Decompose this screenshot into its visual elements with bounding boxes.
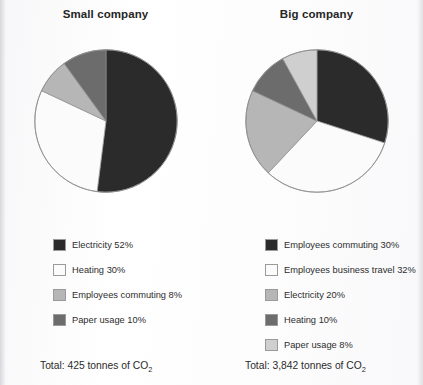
total-text: Total: 425 tonnes of CO — [40, 360, 148, 371]
legend-item-label: Heating 10% — [284, 314, 337, 326]
chart-title-big-company: Big company — [211, 8, 422, 20]
legend-item-label: Employees commuting 8% — [72, 289, 182, 301]
total-subscript: 2 — [362, 365, 366, 374]
pie-svg-small-company — [33, 48, 179, 194]
pie-svg-big-company — [244, 48, 390, 194]
chart-title-small-company: Small company — [0, 8, 211, 20]
legend-swatch — [265, 314, 278, 326]
legend-swatch — [265, 264, 278, 276]
legend-swatch — [265, 239, 278, 251]
legend-item: Employees commuting 8% — [0, 282, 211, 307]
legend-swatch — [265, 289, 278, 301]
legend-item: Employees commuting 30% — [211, 232, 422, 257]
legend-swatch — [53, 239, 66, 251]
legend-item-label: Electricity 52% — [72, 239, 133, 251]
legend-small-company: Electricity 52%Heating 30%Employees comm… — [0, 232, 211, 332]
legend-item-label: Paper usage 10% — [72, 314, 146, 326]
pie-slice — [97, 50, 177, 192]
legend-item: Heating 10% — [211, 307, 422, 332]
total-label-small-company: Total: 425 tonnes of CO2 — [40, 360, 152, 371]
legend-item-label: Electricity 20% — [284, 289, 345, 301]
legend-item: Heating 30% — [0, 257, 211, 282]
legend-item: Employees business travel 32% — [211, 257, 422, 282]
legend-item: Electricity 52% — [0, 232, 211, 257]
legend-swatch — [53, 264, 66, 276]
total-text: Total: 3,842 tonnes of CO — [245, 360, 362, 371]
chart-panel-small-company: Small company Electricity 52%Heating 30%… — [0, 0, 211, 385]
total-subscript: 2 — [148, 365, 152, 374]
total-label-big-company: Total: 3,842 tonnes of CO2 — [245, 360, 366, 371]
legend-item-label: Heating 30% — [72, 264, 125, 276]
legend-item-label: Employees commuting 30% — [284, 239, 399, 251]
chart-panel-big-company: Big company Employees commuting 30%Emplo… — [211, 0, 422, 385]
legend-big-company: Employees commuting 30%Employees busines… — [211, 232, 422, 357]
legend-swatch — [265, 339, 278, 351]
legend-item: Electricity 20% — [211, 282, 422, 307]
pie-chart-small-company — [33, 48, 179, 194]
legend-item: Paper usage 8% — [211, 332, 422, 357]
pie-chart-big-company — [244, 48, 390, 194]
legend-swatch — [53, 289, 66, 301]
legend-item-label: Employees business travel 32% — [284, 264, 416, 276]
legend-item-label: Paper usage 8% — [284, 339, 353, 351]
legend-swatch — [53, 314, 66, 326]
legend-item: Paper usage 10% — [0, 307, 211, 332]
